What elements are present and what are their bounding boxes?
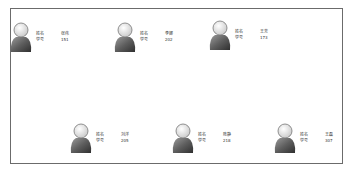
name-label: 姓名: [96, 132, 104, 137]
name-value: 刘洋: [121, 132, 129, 137]
user-card[interactable]: 姓名 学号 张伟 151: [8, 20, 108, 60]
id-label: 学号: [235, 35, 243, 40]
user-card[interactable]: 姓名 学号 王芳 173: [207, 18, 307, 58]
user-avatar-icon: [68, 121, 94, 155]
id-label: 学号: [198, 138, 206, 143]
name-value: 陈静: [223, 132, 231, 137]
user-avatar-icon: [112, 20, 138, 54]
id-label: 学号: [140, 37, 148, 42]
user-avatar-icon: [170, 121, 196, 155]
name-label: 姓名: [198, 132, 206, 137]
name-label: 姓名: [140, 31, 148, 36]
id-value: 173: [260, 35, 268, 40]
name-value: 王芳: [260, 29, 268, 34]
user-avatar-icon: [207, 18, 233, 52]
user-card[interactable]: 姓名 学号 刘洋 205: [68, 121, 168, 161]
id-label: 学号: [96, 138, 104, 143]
user-card[interactable]: 姓名 学号 陈静 218: [170, 121, 270, 161]
user-card[interactable]: 姓名 学号 李娜 202: [112, 20, 212, 60]
name-value: 张伟: [61, 31, 69, 36]
id-label: 学号: [300, 138, 308, 143]
name-value: 李娜: [165, 31, 173, 36]
id-value: 205: [121, 138, 129, 143]
id-value: 307: [325, 138, 333, 143]
name-value: 王磊: [325, 132, 333, 137]
id-value: 218: [223, 138, 231, 143]
name-label: 姓名: [300, 132, 308, 137]
name-label: 姓名: [235, 29, 243, 34]
id-value: 151: [61, 37, 69, 42]
id-value: 202: [165, 37, 173, 42]
user-avatar-icon: [272, 121, 298, 155]
user-card[interactable]: 姓名 学号 王磊 307: [272, 121, 351, 161]
user-avatar-icon: [8, 20, 34, 54]
name-label: 姓名: [36, 31, 44, 36]
id-label: 学号: [36, 37, 44, 42]
